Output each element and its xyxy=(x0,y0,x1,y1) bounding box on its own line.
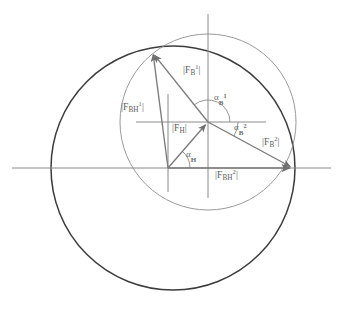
label-f-b2: |FB2| xyxy=(262,138,280,148)
force-vector-diagram: |FB1| |FBH1| |FH| |FB2| |FBH2| αB1 αB2 α… xyxy=(0,0,341,312)
vector-f-bh1 xyxy=(153,55,168,169)
label-f-bh1: |FBH1| xyxy=(121,103,144,113)
label-f-bh2: |FBH2| xyxy=(215,171,238,181)
label-f-b1: |FB1| xyxy=(183,66,201,76)
label-alpha-h: αH xyxy=(186,150,196,159)
label-alpha-b1: αB1 xyxy=(214,93,226,102)
diagram-canvas xyxy=(0,0,341,312)
label-f-h: |FH| xyxy=(172,124,187,134)
label-alpha-b2: αB2 xyxy=(234,123,246,132)
